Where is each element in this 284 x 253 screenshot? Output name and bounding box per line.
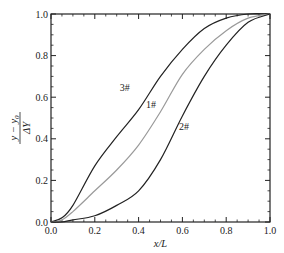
x-axis-title: x/L [153, 238, 168, 249]
x-tick-label: 0.4 [132, 225, 145, 236]
x-tick-label: 1.0 [264, 225, 277, 236]
series-label-3: 3# [120, 82, 130, 93]
x-tick-label: 0.2 [89, 225, 102, 236]
y-tick-label: 0.2 [36, 175, 49, 186]
x-tick-label: 0.8 [220, 225, 233, 236]
series-line-1 [51, 14, 270, 222]
x-tick-label: 0.6 [176, 225, 189, 236]
series-line-2 [51, 14, 270, 222]
series-labels: 3#1#2# [120, 82, 189, 133]
line-chart: 0.00.20.40.60.81.00.00.20.40.60.81.0 3#1… [0, 0, 284, 253]
series-label-1: 1# [146, 99, 156, 110]
y-axis-title: y − y0ΔY [8, 112, 32, 144]
axes: 0.00.20.40.60.81.00.00.20.40.60.81.0 [36, 9, 277, 237]
y-tick-label: 0.6 [36, 92, 49, 103]
series-lines [51, 14, 270, 222]
y-title-denominator: ΔY [21, 121, 32, 135]
y-title-numerator: y − y0 [8, 115, 21, 142]
plot-frame [51, 14, 270, 222]
series-label-2: 2# [179, 121, 189, 132]
series-line-3 [51, 14, 270, 222]
y-tick-label: 0.8 [36, 50, 49, 61]
y-tick-label: 0.4 [36, 133, 49, 144]
y-tick-label: 0.0 [36, 217, 49, 228]
y-tick-label: 1.0 [36, 9, 49, 20]
